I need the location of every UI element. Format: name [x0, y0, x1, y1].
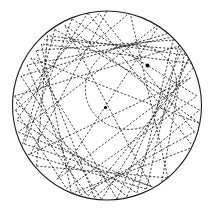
trajectory-chord: [57, 78, 191, 180]
focus-points-layer: [104, 64, 150, 110]
billiard-caustic-figure: [0, 0, 214, 216]
trajectory-chord: [88, 13, 194, 147]
trajectory-chord: [127, 50, 193, 197]
trajectory-chord: [65, 25, 200, 123]
trajectory-chord: [17, 120, 137, 193]
figure-canvas: [0, 0, 214, 216]
trajectory-chord: [95, 110, 200, 198]
focus-lower-left: [104, 106, 107, 109]
trajectory-chord: [55, 30, 200, 111]
chord-trajectory-layer: [15, 11, 200, 200]
trajectory-chord: [16, 14, 99, 104]
focus-upper-right: [146, 64, 150, 68]
trajectory-chord: [21, 32, 175, 77]
trajectory-chord: [27, 36, 181, 66]
trajectory-chord: [19, 132, 152, 187]
